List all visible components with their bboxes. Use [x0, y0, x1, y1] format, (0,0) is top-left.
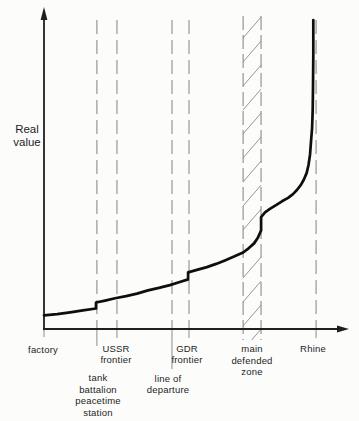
y-axis-label-line: value [13, 136, 41, 149]
label-line: factory [28, 344, 58, 355]
label-line: zone [231, 366, 272, 378]
label-line: GDR [171, 343, 202, 354]
y-axis-label-line: Real [13, 123, 41, 136]
label-line: frontier [100, 354, 131, 365]
label-line: defended [231, 355, 272, 367]
diagram: Real value factory tank battalion peacet… [0, 0, 359, 421]
label-main-defended-zone: main defended zone [231, 343, 272, 378]
label-line: USSR [100, 343, 131, 354]
label-line: Rhine [300, 343, 326, 354]
label-line: battalion [75, 384, 121, 396]
y-axis-label: Real value [13, 123, 41, 148]
label-ussr-frontier: USSR frontier [100, 343, 131, 365]
label-line: frontier [171, 354, 202, 365]
label-line: main [231, 343, 272, 355]
label-tank-battalion-peacetime-station: tank battalion peacetime station [75, 372, 121, 418]
label-line: station [75, 407, 121, 419]
label-factory: factory [28, 344, 58, 355]
label-line: line of [147, 373, 189, 384]
label-line: tank [75, 372, 121, 384]
label-line: peacetime [75, 395, 121, 407]
label-line-of-departure: line of departure [147, 373, 189, 395]
label-gdr-frontier: GDR frontier [171, 343, 202, 365]
label-rhine: Rhine [300, 343, 326, 354]
label-line: departure [147, 384, 189, 395]
